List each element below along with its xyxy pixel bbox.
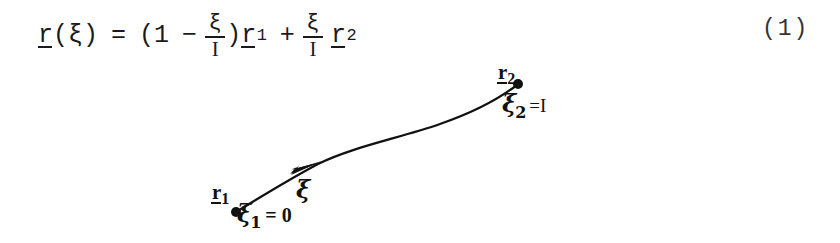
parametric-curve [236, 85, 517, 212]
figure-page: r(ξ) = ( 1 − ξ I )r1 + ξ I r2 (1) [0, 0, 840, 243]
parameter-xi1-value: = 0 [265, 204, 291, 226]
end-point-parameter-label: ξ2=I [502, 92, 546, 121]
parameter-xi2-value: =I [529, 95, 546, 116]
start-point-parameter-label: ξ1= 0 [237, 202, 292, 231]
curve-diagram [0, 0, 840, 243]
parameter-xi2-symbol: ξ [502, 89, 516, 118]
curve-parameter-label: ξ [296, 178, 310, 202]
parameter-xi1-subscript: 1 [250, 215, 261, 231]
parameter-xi1-symbol: ξ [237, 199, 251, 228]
parameter-xi-symbol: ξ [296, 175, 310, 204]
vector-r1-subscript: 1 [221, 191, 229, 207]
end-point-vector-label: r2 [498, 62, 515, 87]
vector-r2-symbol: r [498, 62, 507, 85]
parameter-xi2-subscript: 2 [515, 105, 526, 121]
vector-r2-subscript: 2 [507, 71, 515, 87]
vector-r1-symbol: r [212, 182, 221, 205]
start-point-vector-label: r1 [212, 182, 229, 207]
